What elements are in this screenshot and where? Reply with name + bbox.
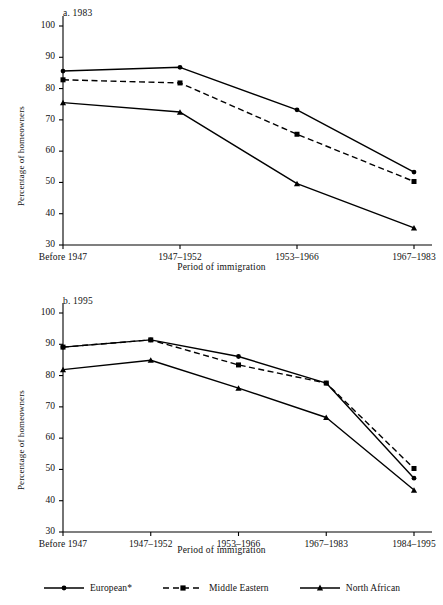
legend-swatch-middle-eastern: [162, 582, 204, 594]
y-axis-tick-label: 30: [29, 526, 55, 536]
y-axis-tick-label: 40: [29, 208, 55, 218]
legend-item-middle-eastern: Middle Eastern: [162, 582, 269, 594]
chart-b-plot: [0, 290, 443, 570]
y-axis-tick-label: 80: [29, 83, 55, 93]
y-axis-tick-label: 80: [29, 370, 55, 380]
chart-legend: European* Middle Eastern North African: [0, 575, 443, 601]
x-axis-tick-label: 1967–1983: [369, 252, 443, 262]
legend-swatch-european: [43, 582, 85, 594]
y-axis-tick-label: 40: [29, 495, 55, 505]
x-axis-tick-label: 1967–1983: [281, 539, 371, 549]
x-axis-tick-label: 1947–1952: [135, 252, 225, 262]
y-axis-tick-label: 30: [29, 239, 55, 249]
legend-label-middle-eastern: Middle Eastern: [209, 583, 269, 593]
x-axis-tick-label: 1953–1966: [194, 539, 284, 549]
y-axis-tick-label: 90: [29, 51, 55, 61]
chart-panel-a: a. 1983 Percentage of homeowners Period …: [0, 0, 443, 288]
y-axis-tick-label: 60: [29, 432, 55, 442]
y-axis-tick-label: 100: [29, 20, 55, 30]
legend-label-european: European*: [90, 583, 132, 593]
x-axis-tick-label: Before 1947: [18, 252, 108, 262]
chart-panel-b: b. 1995 Percentage of homeowners Period …: [0, 290, 443, 570]
chart-a-title: a. 1983: [63, 8, 92, 18]
x-axis-tick-label: Before 1947: [18, 539, 108, 549]
legend-label-north-african: North African: [346, 583, 400, 593]
figure-homeownership-by-immigration-period: a. 1983 Percentage of homeowners Period …: [0, 0, 443, 605]
y-axis-tick-label: 60: [29, 145, 55, 155]
x-axis-tick-label: 1947–1952: [106, 539, 196, 549]
y-axis-tick-label: 50: [29, 463, 55, 473]
chart-a-plot: [0, 0, 443, 288]
y-axis-tick-label: 70: [29, 401, 55, 411]
y-axis-tick-label: 50: [29, 176, 55, 186]
chart-b-title: b. 1995: [63, 296, 93, 306]
x-axis-tick-label: 1984–1995: [369, 539, 443, 549]
y-axis-tick-label: 100: [29, 307, 55, 317]
chart-a-x-axis-label: Period of immigration: [0, 262, 443, 272]
chart-b-y-axis-label: Percentage of homeowners: [16, 390, 26, 490]
y-axis-tick-label: 70: [29, 114, 55, 124]
legend-item-european: European*: [43, 582, 132, 594]
y-axis-tick-label: 90: [29, 338, 55, 348]
x-axis-tick-label: 1953–1966: [252, 252, 342, 262]
legend-swatch-north-african: [299, 582, 341, 594]
legend-item-north-african: North African: [299, 582, 400, 594]
chart-a-y-axis-label: Percentage of homeowners: [16, 106, 26, 206]
